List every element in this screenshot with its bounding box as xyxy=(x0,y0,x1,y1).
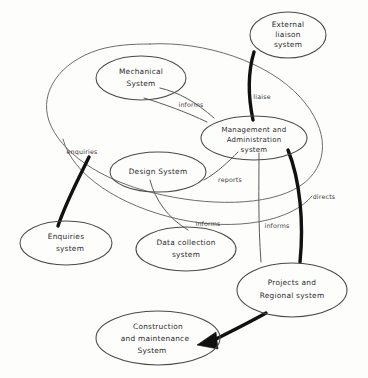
boundary-lower-sweep xyxy=(63,139,312,224)
link-line xyxy=(58,157,89,226)
node-design-system[interactable]: Design System xyxy=(110,152,206,192)
node-label-line1: Mechanical xyxy=(119,67,163,76)
edge-label-liaise: liaise xyxy=(253,93,270,100)
node-outline xyxy=(96,56,186,100)
node-projects-and-regional-system[interactable]: Projects and Regional system xyxy=(237,263,347,317)
node-construction-and-maintenance-system[interactable]: Construction and maintenance System xyxy=(96,311,220,365)
link-external-liaison-liaise-management xyxy=(249,52,254,120)
link-design-informs-data-collection xyxy=(150,180,188,230)
link-line xyxy=(259,153,261,262)
link-enquiries-enquiries-boundary xyxy=(58,157,89,226)
node-label-line1: Projects and xyxy=(268,278,316,287)
link-line xyxy=(288,150,302,262)
node-label-line1: Data collection xyxy=(156,238,215,247)
node-label-line3: System xyxy=(137,346,166,355)
node-label-line1: Design System xyxy=(129,167,188,176)
edge-label-informs-projects: informs xyxy=(264,222,289,229)
organisation-boundary xyxy=(47,44,323,225)
link-management-directs-projects xyxy=(288,150,302,262)
node-label-line3: system xyxy=(241,146,268,154)
node-label-line1: Enquiries xyxy=(48,232,85,241)
link-management-informs-projects xyxy=(259,153,261,262)
edge-label-enquiries: enquiries xyxy=(67,148,98,156)
node-label-line1: Management and xyxy=(221,126,286,134)
node-label-line3: system xyxy=(274,40,302,49)
node-label-line1: Construction xyxy=(133,322,183,331)
node-label-line2: liaison xyxy=(275,30,301,39)
node-outline xyxy=(136,227,236,271)
link-line xyxy=(150,180,188,230)
node-label-line2: system xyxy=(172,250,200,259)
node-label-line2: and maintenance xyxy=(121,334,190,343)
node-label-line2: system xyxy=(56,244,84,253)
edge-label-informs-mechanical: informs xyxy=(178,101,203,108)
node-external-liaison-system[interactable]: External liaison system xyxy=(250,12,326,58)
edge-label-directs: directs xyxy=(313,193,336,200)
systems-diagram: External liaison system Mechanical Syste… xyxy=(0,0,368,378)
edge-label-reports: reports xyxy=(218,176,242,184)
node-data-collection-system[interactable]: Data collection system xyxy=(136,227,236,271)
edge-label-informs-data-collection: informs xyxy=(195,220,220,227)
link-projects-to-construction xyxy=(197,313,266,349)
node-label-line2: Regional system xyxy=(260,291,325,300)
diagram-canvas: External liaison system Mechanical Syste… xyxy=(0,0,368,378)
node-management-and-administration-system[interactable]: Management and Administration system xyxy=(201,116,307,160)
node-enquiries-system[interactable]: Enquiries system xyxy=(20,221,112,265)
node-mechanical-system[interactable]: Mechanical System xyxy=(96,56,186,100)
node-label-line2: System xyxy=(126,79,155,88)
link-line xyxy=(249,52,254,120)
link-line xyxy=(214,313,266,340)
node-label-line2: Administration xyxy=(227,136,282,144)
node-outline xyxy=(237,263,347,317)
node-outline xyxy=(20,221,112,265)
boundary-outline xyxy=(47,44,323,203)
arrowhead-icon xyxy=(197,332,218,349)
node-label-line1: External xyxy=(272,20,305,29)
